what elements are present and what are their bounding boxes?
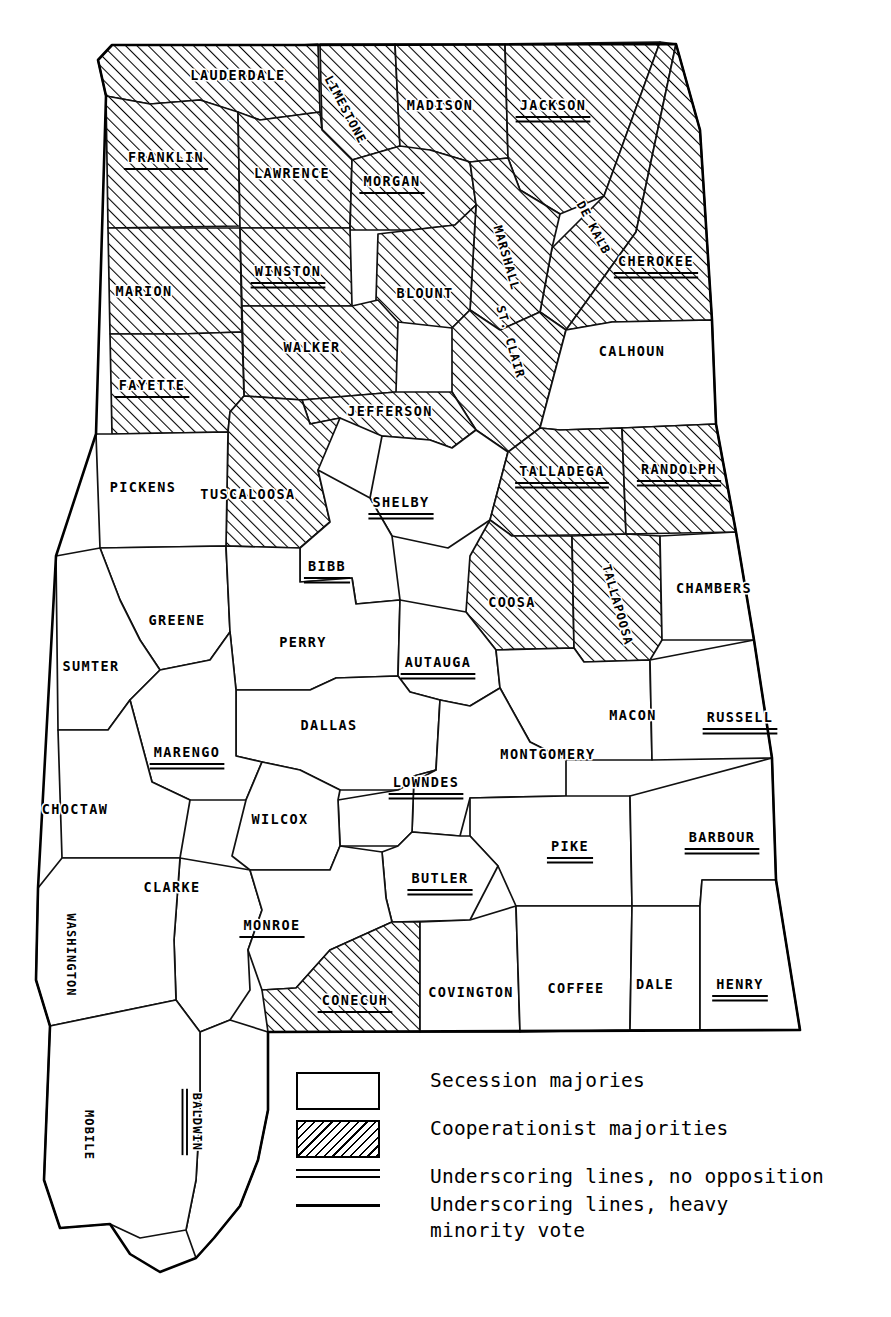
county-name-text: MORGAN: [363, 173, 420, 189]
county-name-text: MADISON: [407, 97, 474, 113]
county-coosa[interactable]: [466, 520, 574, 650]
county-name-text: FAYETTE: [119, 377, 186, 393]
county-russell[interactable]: [650, 640, 772, 760]
county-name-text: AUTAUGA: [405, 654, 472, 670]
county-label-covington: COVINGTON: [428, 984, 514, 1000]
county-name-text: CLARKE: [143, 879, 200, 895]
county-label-autauga: AUTAUGA: [401, 654, 476, 679]
county-label-wilcox: WILCOX: [251, 811, 308, 827]
legend-swatch-cell: [296, 1068, 424, 1110]
single-rule-swatch-icon: [296, 1204, 380, 1207]
county-name-text: MACON: [609, 707, 657, 723]
county-label-barbour: BARBOUR: [685, 829, 760, 854]
county-name-text: CHAMBERS: [676, 580, 752, 596]
county-covington[interactable]: [420, 906, 520, 1032]
county-label-tuscaloosa: TUSCALOOSA: [200, 486, 295, 502]
county-name-text: MARION: [115, 283, 172, 299]
county-name-text: MONTGOMERY: [500, 746, 595, 762]
county-name-text: TUSCALOOSA: [200, 486, 295, 502]
county-name-text: WINSTON: [255, 263, 322, 279]
county-label-lauderdale: LAUDERDALE: [190, 67, 285, 83]
legend-swatch-cell: [296, 1192, 424, 1207]
county-name-text: RUSSELL: [707, 709, 774, 725]
legend-row-no-opposition: Underscoring lines, no opposition: [296, 1164, 856, 1190]
county-label-shelby: SHELBY: [368, 494, 433, 519]
county-label-bibb: BIBB: [304, 558, 350, 583]
county-label-sumter: SUMTER: [62, 658, 119, 674]
county-name-text: BARBOUR: [689, 829, 756, 845]
secession-swatch-icon: [296, 1072, 380, 1110]
county-label-washington: WASHINGTON: [64, 913, 78, 996]
county-label-coosa: COOSA: [488, 594, 536, 610]
county-name-text: WILCOX: [251, 811, 308, 827]
county-dale[interactable]: [630, 906, 700, 1030]
county-name-text: PICKENS: [110, 479, 177, 495]
county-name-text: DALLAS: [300, 717, 357, 733]
legend-swatch-cell: [296, 1164, 424, 1180]
map-legend: Secession majories Cooperationist majori…: [296, 1068, 856, 1246]
county-label-chambers: CHAMBERS: [676, 580, 752, 596]
county-label-butler: BUTLER: [407, 870, 472, 895]
county-label-calhoun: CALHOUN: [599, 343, 666, 359]
legend-label-no-opposition: Underscoring lines, no opposition: [424, 1164, 824, 1190]
county-name-text: COOSA: [488, 594, 536, 610]
county-name-text: FRANKLIN: [128, 149, 204, 165]
legend-label-heavy-minority: Underscoring lines, heavy minority vote: [424, 1192, 729, 1244]
county-label-marion: MARION: [115, 283, 172, 299]
county-name-text: LAUDERDALE: [190, 67, 285, 83]
county-name-text: COFFEE: [547, 980, 604, 996]
county-name-text: GREENE: [148, 612, 205, 628]
county-name-text: JACKSON: [520, 97, 587, 113]
county-coffee[interactable]: [516, 906, 632, 1032]
county-name-text: JEFFERSON: [347, 403, 433, 419]
county-label-coffee: COFFEE: [547, 980, 604, 996]
county-name-text: CHEROKEE: [618, 253, 694, 269]
county-name-text: LAWRENCE: [254, 165, 330, 181]
county-label-blount: BLOUNT: [396, 285, 453, 301]
county-name-text: HENRY: [716, 976, 764, 992]
county-label-russell: RUSSELL: [703, 709, 778, 734]
county-label-lawrence: LAWRENCE: [254, 165, 330, 181]
county-label-lowndes: LOWNDES: [389, 774, 464, 799]
county-henry[interactable]: [700, 880, 800, 1030]
legend-swatch-cell: [296, 1116, 424, 1158]
county-label-walker: WALKER: [283, 339, 340, 355]
county-name-text: CALHOUN: [599, 343, 666, 359]
county-label-clarke: CLARKE: [143, 879, 200, 895]
county-name-text: CHOCTAW: [42, 801, 109, 817]
county-name-text: LOWNDES: [393, 774, 460, 790]
county-label-madison: MADISON: [407, 97, 474, 113]
county-name-text: MARENGO: [154, 744, 221, 760]
county-label-marengo: MARENGO: [150, 744, 225, 769]
secession-map-page: { "map": { "title": "Alabama county vote…: [0, 0, 891, 1317]
county-label-choctaw: CHOCTAW: [42, 801, 109, 817]
legend-row-heavy-minority: Underscoring lines, heavy minority vote: [296, 1192, 856, 1244]
county-name-text: CONECUH: [322, 992, 389, 1008]
county-label-pike: PIKE: [547, 838, 593, 863]
double-rule-swatch-icon: [296, 1168, 380, 1180]
county-name-text: WASHINGTON: [64, 913, 78, 996]
county-label-talladega: TALLADEGA: [515, 463, 609, 488]
county-name-text: MOBILE: [82, 1110, 96, 1160]
legend-label-secession: Secession majories: [424, 1068, 645, 1094]
county-label-winston: WINSTON: [251, 263, 326, 288]
county-name-text: BLOUNT: [396, 285, 453, 301]
county-name-text: SUMTER: [62, 658, 119, 674]
county-label-randolph: RANDOLPH: [637, 461, 721, 486]
legend-label-cooperationist: Cooperationist majorities: [424, 1116, 729, 1142]
county-calhoun[interactable]: [540, 320, 716, 430]
county-marion[interactable]: [108, 228, 242, 334]
county-name-text: COVINGTON: [428, 984, 514, 1000]
county-mobile[interactable]: [44, 1000, 200, 1238]
county-label-henry: HENRY: [712, 976, 768, 1001]
county-label-jefferson: JEFFERSON: [347, 403, 433, 419]
county-label-perry: PERRY: [279, 634, 327, 650]
cooperationist-swatch-icon: [296, 1120, 380, 1158]
county-name-text: PIKE: [551, 838, 589, 854]
county-name-text: MONROE: [243, 917, 300, 933]
county-name-text: BALDWIN: [190, 1093, 204, 1151]
legend-row-secession: Secession majories: [296, 1068, 856, 1110]
county-label-dale: DALE: [636, 976, 674, 992]
county-label-montgomery: MONTGOMERY: [500, 746, 595, 762]
county-name-text: WALKER: [283, 339, 340, 355]
